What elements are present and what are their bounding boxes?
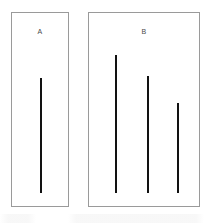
caption-artifact — [0, 214, 212, 223]
standard-line — [40, 78, 42, 193]
line-judgment-figure: A B — [0, 0, 212, 223]
card-b: B — [88, 12, 200, 207]
card-a-label: A — [12, 28, 68, 36]
card-a: A — [11, 12, 69, 207]
comparison-line-1 — [115, 55, 117, 193]
comparison-line-2 — [147, 76, 149, 193]
card-b-label: B — [89, 28, 199, 36]
comparison-line-3 — [177, 103, 179, 193]
